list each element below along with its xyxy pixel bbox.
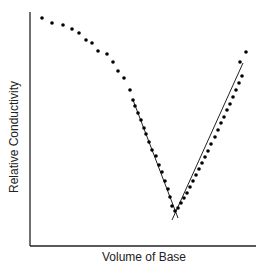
data-point [157,163,161,167]
data-point [131,98,135,102]
x-axis-label: Volume of Base [0,250,268,264]
data-point [90,41,94,45]
data-point [50,21,54,25]
data-point [240,74,244,78]
data-point [163,179,167,183]
data-point [219,121,223,125]
data-point [237,81,241,85]
data-point [213,135,217,139]
data-point [200,161,204,165]
data-point [111,60,115,64]
data-point [40,16,44,20]
data-point [122,76,126,80]
data-point [173,209,177,213]
data-point [133,104,137,108]
data-point [142,126,146,130]
data-point [154,154,158,158]
data-point [206,149,210,153]
data-point [234,88,238,92]
data-point [188,185,192,189]
data-point [222,115,226,119]
data-point [194,173,198,177]
data-point [147,140,151,144]
data-point [168,195,172,199]
data-point [238,60,242,64]
fit-line-ascending [172,63,243,220]
data-point [209,142,213,146]
data-point [160,170,164,174]
data-points [40,16,248,213]
data-point [150,148,154,152]
data-point [144,132,148,136]
data-point [225,108,229,112]
data-point [136,111,140,115]
data-point [197,167,201,171]
data-point [128,88,132,92]
data-point [105,52,109,56]
data-point [77,31,81,35]
data-point [216,128,220,132]
y-axis-label: Relative Conductivity [7,67,21,207]
data-point [191,179,195,183]
data-point [139,118,143,122]
data-point [70,27,74,31]
data-point [166,187,170,191]
data-point [231,95,235,99]
data-point [244,50,248,54]
data-point [170,204,174,208]
data-point [179,201,183,205]
chart-canvas [0,0,268,274]
data-point [116,69,120,73]
data-point [228,102,232,106]
data-point [61,23,65,27]
data-point [176,206,180,210]
data-point [84,38,88,42]
data-point [182,196,186,200]
data-point [185,191,189,195]
fit-line-descending [133,100,178,218]
data-point [203,155,207,159]
data-point [96,49,100,53]
